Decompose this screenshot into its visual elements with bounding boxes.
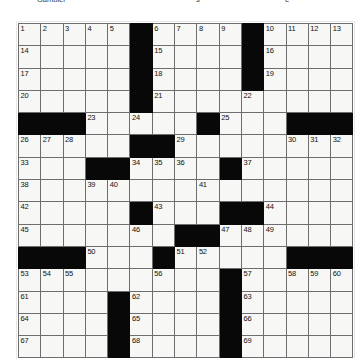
crossword-cell[interactable]: 20	[19, 90, 41, 112]
crossword-cell[interactable]	[175, 336, 197, 358]
crossword-cell[interactable]: 65	[130, 313, 152, 335]
crossword-cell[interactable]: 31	[308, 135, 330, 157]
crossword-cell[interactable]: 49	[264, 224, 286, 246]
crossword-cell[interactable]: 28	[63, 135, 85, 157]
crossword-cell[interactable]: 45	[19, 224, 41, 246]
crossword-cell[interactable]: 9	[219, 24, 241, 46]
crossword-cell[interactable]	[175, 180, 197, 202]
crossword-cell[interactable]	[175, 202, 197, 224]
crossword-cell[interactable]	[308, 157, 330, 179]
crossword-cell[interactable]	[331, 224, 353, 246]
crossword-cell[interactable]	[331, 90, 353, 112]
crossword-cell[interactable]	[197, 202, 219, 224]
crossword-cell[interactable]: 41	[197, 180, 219, 202]
crossword-cell[interactable]: 58	[286, 269, 308, 291]
crossword-cell[interactable]	[264, 113, 286, 135]
crossword-cell[interactable]: 64	[19, 313, 41, 335]
crossword-cell[interactable]	[85, 291, 107, 313]
crossword-cell[interactable]	[286, 336, 308, 358]
crossword-cell[interactable]	[108, 113, 130, 135]
crossword-cell[interactable]	[264, 157, 286, 179]
crossword-cell[interactable]: 34	[130, 157, 152, 179]
crossword-cell[interactable]: 44	[264, 202, 286, 224]
crossword-cell[interactable]: 16	[264, 46, 286, 68]
crossword-cell[interactable]	[241, 135, 263, 157]
crossword-cell[interactable]	[108, 269, 130, 291]
crossword-cell[interactable]	[286, 180, 308, 202]
crossword-cell[interactable]: 55	[63, 269, 85, 291]
crossword-cell[interactable]	[308, 291, 330, 313]
crossword-cell[interactable]: 43	[152, 202, 174, 224]
crossword-cell[interactable]: 25	[219, 113, 241, 135]
crossword-cell[interactable]: 40	[108, 180, 130, 202]
crossword-cell[interactable]	[41, 336, 63, 358]
crossword-cell[interactable]: 42	[19, 202, 41, 224]
crossword-cell[interactable]	[85, 135, 107, 157]
crossword-cell[interactable]	[241, 246, 263, 268]
crossword-cell[interactable]: 57	[241, 269, 263, 291]
crossword-cell[interactable]: 36	[175, 157, 197, 179]
crossword-cell[interactable]	[219, 246, 241, 268]
crossword-cell[interactable]	[175, 113, 197, 135]
crossword-cell[interactable]	[41, 202, 63, 224]
crossword-cell[interactable]	[241, 180, 263, 202]
crossword-cell[interactable]: 46	[130, 224, 152, 246]
crossword-cell[interactable]	[308, 202, 330, 224]
crossword-cell[interactable]	[63, 336, 85, 358]
crossword-cell[interactable]: 1	[19, 24, 41, 46]
crossword-cell[interactable]: 37	[241, 157, 263, 179]
crossword-cell[interactable]	[152, 336, 174, 358]
crossword-cell[interactable]: 21	[152, 90, 174, 112]
crossword-cell[interactable]	[175, 313, 197, 335]
crossword-cell[interactable]: 63	[241, 291, 263, 313]
crossword-cell[interactable]: 18	[152, 68, 174, 90]
crossword-cell[interactable]: 68	[130, 336, 152, 358]
crossword-cell[interactable]	[85, 202, 107, 224]
crossword-cell[interactable]	[197, 157, 219, 179]
crossword-cell[interactable]: 51	[175, 246, 197, 268]
crossword-cell[interactable]: 10	[264, 24, 286, 46]
crossword-cell[interactable]	[331, 291, 353, 313]
crossword-cell[interactable]	[197, 269, 219, 291]
crossword-cell[interactable]: 8	[197, 24, 219, 46]
crossword-cell[interactable]	[152, 224, 174, 246]
crossword-cell[interactable]	[175, 269, 197, 291]
crossword-cell[interactable]	[85, 269, 107, 291]
crossword-cell[interactable]: 47	[219, 224, 241, 246]
crossword-cell[interactable]	[85, 90, 107, 112]
crossword-cell[interactable]	[331, 68, 353, 90]
crossword-cell[interactable]	[63, 46, 85, 68]
crossword-cell[interactable]	[286, 224, 308, 246]
crossword-cell[interactable]	[331, 313, 353, 335]
crossword-cell[interactable]	[41, 224, 63, 246]
crossword-cell[interactable]	[41, 157, 63, 179]
crossword-cell[interactable]: 53	[19, 269, 41, 291]
crossword-cell[interactable]: 35	[152, 157, 174, 179]
crossword-cell[interactable]	[331, 46, 353, 68]
crossword-cell[interactable]	[175, 46, 197, 68]
crossword-cell[interactable]: 15	[152, 46, 174, 68]
crossword-cell[interactable]	[41, 68, 63, 90]
crossword-cell[interactable]	[286, 202, 308, 224]
crossword-cell[interactable]: 48	[241, 224, 263, 246]
crossword-cell[interactable]: 38	[19, 180, 41, 202]
crossword-cell[interactable]	[41, 90, 63, 112]
crossword-cell[interactable]: 12	[308, 24, 330, 46]
crossword-cell[interactable]: 13	[331, 24, 353, 46]
crossword-cell[interactable]: 33	[19, 157, 41, 179]
crossword-cell[interactable]	[108, 202, 130, 224]
crossword-cell[interactable]: 66	[241, 313, 263, 335]
crossword-cell[interactable]	[175, 90, 197, 112]
crossword-cell[interactable]	[63, 68, 85, 90]
crossword-cell[interactable]: 39	[85, 180, 107, 202]
crossword-cell[interactable]: 59	[308, 269, 330, 291]
crossword-cell[interactable]	[85, 313, 107, 335]
crossword-cell[interactable]: 22	[241, 90, 263, 112]
crossword-cell[interactable]	[197, 313, 219, 335]
crossword-cell[interactable]	[63, 90, 85, 112]
crossword-cell[interactable]	[308, 224, 330, 246]
crossword-cell[interactable]	[219, 68, 241, 90]
crossword-cell[interactable]	[264, 336, 286, 358]
crossword-cell[interactable]	[286, 46, 308, 68]
crossword-cell[interactable]: 3	[63, 24, 85, 46]
